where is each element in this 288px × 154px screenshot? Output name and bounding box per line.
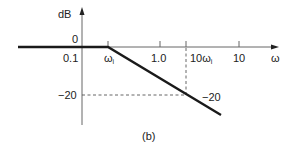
y-tick-label-minus20: −20 — [58, 89, 77, 101]
bode-plot-figure: dB 0 0.1 ωi 1.0 10ωi 10 ω −20 −20 (b) — [0, 0, 288, 154]
x-tick-label-10: 10 — [233, 52, 245, 64]
y-axis-label: dB — [58, 8, 71, 20]
x-axis-label: ω — [271, 52, 280, 64]
slope-label: −20 — [202, 91, 221, 103]
figure-caption: (b) — [142, 130, 155, 142]
y-axis — [80, 7, 85, 125]
y-tick-label-0: 0 — [72, 33, 78, 45]
x-tick-label-wi: ωi — [104, 52, 115, 65]
x-axis — [18, 41, 279, 50]
x-axis-arrow-icon — [271, 45, 279, 50]
x-tick-label-1-0: 1.0 — [151, 52, 166, 64]
x-tick-label-10wi: 10ωi — [190, 52, 213, 65]
guide-lines — [82, 48, 186, 95]
y-axis-arrow-icon — [80, 7, 85, 15]
x-tick-label-0-1: 0.1 — [63, 52, 78, 64]
